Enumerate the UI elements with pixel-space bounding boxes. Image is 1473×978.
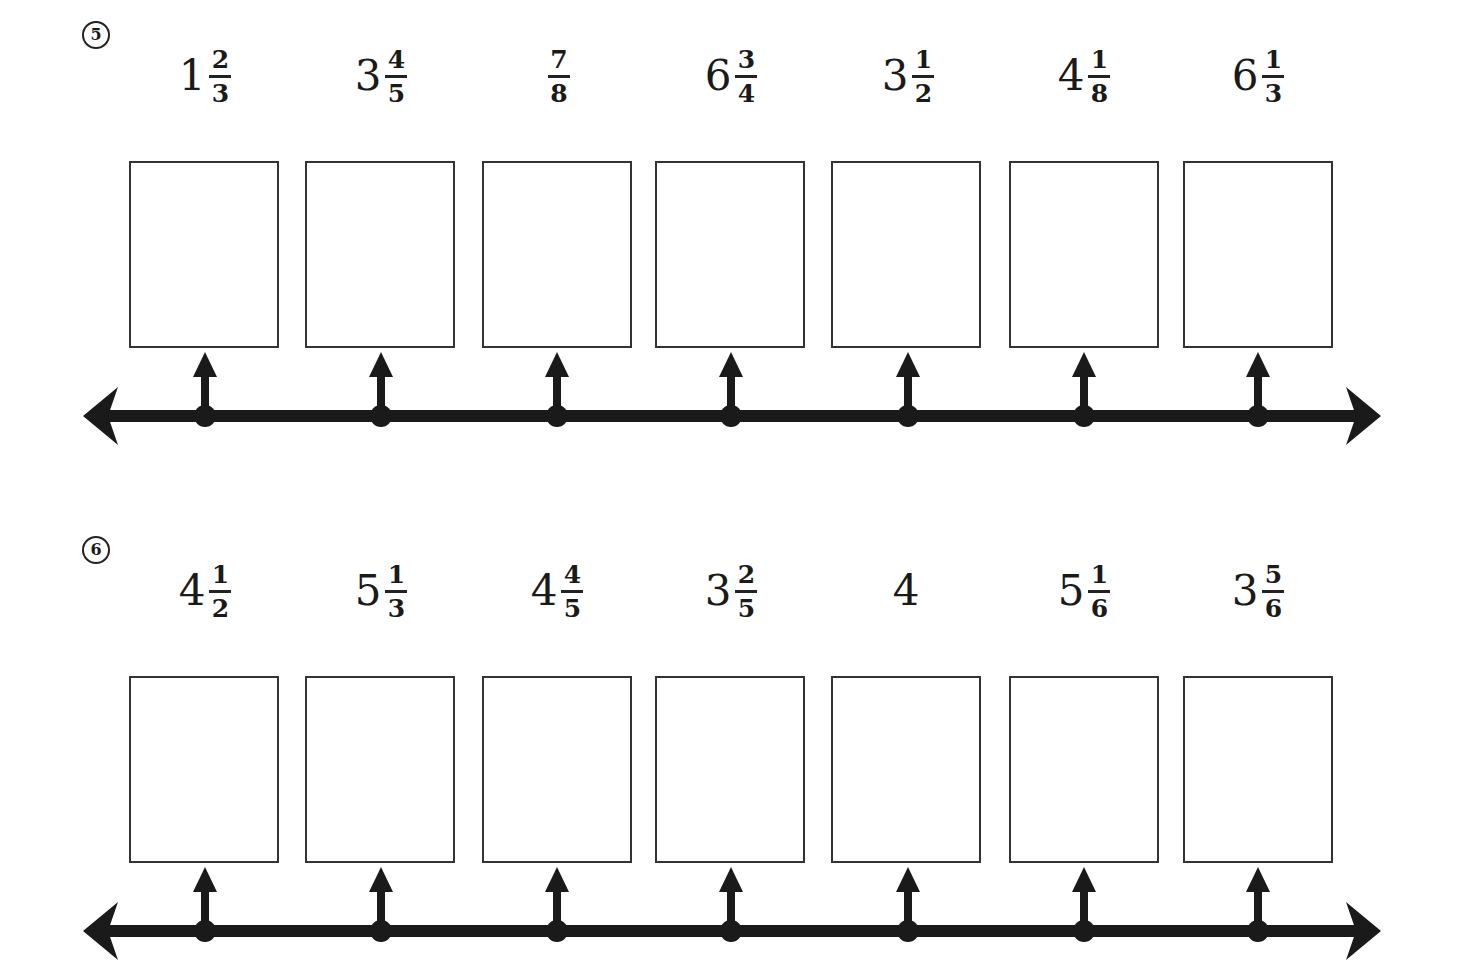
tick-point-arrow-icon [1072, 352, 1096, 427]
tick-point-arrow-icon [1072, 867, 1096, 942]
fraction: 45 [561, 562, 583, 621]
denominator: 5 [738, 593, 755, 621]
fraction: 16 [1088, 562, 1110, 621]
number-line [0, 340, 1473, 460]
fraction: 13 [1262, 47, 1284, 106]
numerator: 1 [915, 47, 932, 75]
mixed-number-label: 312 [848, 34, 968, 118]
problem-number-badge: 5 [82, 21, 110, 49]
answer-box[interactable] [1009, 161, 1159, 348]
whole-part: 5 [355, 570, 382, 612]
answer-box[interactable] [305, 676, 455, 863]
problem-5: 512334578634312418613 [0, 0, 1473, 470]
fraction: 45 [385, 47, 407, 106]
numerator: 1 [388, 562, 405, 590]
whole-part: 4 [893, 570, 920, 612]
tick-point-arrow-icon [193, 867, 217, 942]
numerator: 2 [212, 47, 229, 75]
answer-box[interactable] [831, 676, 981, 863]
denominator: 6 [1091, 593, 1108, 621]
denominator: 2 [915, 78, 932, 106]
denominator: 3 [212, 78, 229, 106]
fraction: 12 [912, 47, 934, 106]
mixed-number-label: 123 [145, 34, 265, 118]
tick-point-arrow-icon [369, 867, 393, 942]
denominator: 5 [388, 78, 405, 106]
answer-box[interactable] [482, 676, 632, 863]
fraction: 25 [735, 562, 757, 621]
mixed-number-label: 4 [848, 549, 968, 633]
denominator: 5 [564, 593, 581, 621]
denominator: 6 [1265, 593, 1282, 621]
whole-part: 3 [882, 55, 909, 97]
fraction: 12 [209, 562, 231, 621]
answer-box[interactable] [655, 161, 805, 348]
answer-box[interactable] [129, 676, 279, 863]
numerator: 4 [564, 562, 581, 590]
tick-point-arrow-icon [896, 352, 920, 427]
mixed-number-label: 634 [671, 34, 791, 118]
answer-box[interactable] [305, 161, 455, 348]
whole-part: 4 [1058, 55, 1085, 97]
mixed-number-label: 345 [321, 34, 441, 118]
mixed-number-label: 418 [1024, 34, 1144, 118]
problem-number-badge: 6 [82, 536, 110, 564]
problem-6: 64125134453254516356 [0, 515, 1473, 978]
whole-part: 3 [1232, 570, 1259, 612]
whole-part: 6 [705, 55, 732, 97]
answer-box[interactable] [1009, 676, 1159, 863]
numerator: 2 [738, 562, 755, 590]
answer-box[interactable] [655, 676, 805, 863]
whole-part: 6 [1232, 55, 1259, 97]
mixed-number-label: 356 [1198, 549, 1318, 633]
answer-box[interactable] [129, 161, 279, 348]
mixed-number-label: 78 [497, 34, 617, 118]
fraction: 78 [548, 47, 570, 106]
number-line [0, 855, 1473, 975]
denominator: 3 [388, 593, 405, 621]
tick-point-arrow-icon [545, 352, 569, 427]
mixed-number-label: 412 [145, 549, 265, 633]
whole-part: 5 [1058, 570, 1085, 612]
answer-box[interactable] [831, 161, 981, 348]
denominator: 4 [738, 78, 755, 106]
whole-part: 4 [531, 570, 558, 612]
answer-box[interactable] [1183, 676, 1333, 863]
answer-box[interactable] [1183, 161, 1333, 348]
numerator: 7 [550, 47, 567, 75]
numerator: 1 [1091, 47, 1108, 75]
tick-point-arrow-icon [719, 867, 743, 942]
tick-point-arrow-icon [896, 867, 920, 942]
numerator: 1 [212, 562, 229, 590]
fraction: 23 [209, 47, 231, 106]
tick-point-arrow-icon [369, 352, 393, 427]
fraction: 13 [385, 562, 407, 621]
whole-part: 1 [179, 55, 206, 97]
mixed-number-label: 445 [497, 549, 617, 633]
mixed-number-label: 325 [671, 549, 791, 633]
tick-point-arrow-icon [1246, 352, 1270, 427]
fraction: 34 [735, 47, 757, 106]
numerator: 1 [1091, 562, 1108, 590]
denominator: 3 [1265, 78, 1282, 106]
numerator: 3 [738, 47, 755, 75]
mixed-number-label: 513 [321, 549, 441, 633]
fraction: 56 [1262, 562, 1284, 621]
numerator: 4 [388, 47, 405, 75]
denominator: 8 [550, 78, 567, 106]
mixed-number-label: 613 [1198, 34, 1318, 118]
fraction: 18 [1088, 47, 1110, 106]
whole-part: 4 [179, 570, 206, 612]
tick-point-arrow-icon [545, 867, 569, 942]
whole-part: 3 [355, 55, 382, 97]
tick-point-arrow-icon [719, 352, 743, 427]
whole-part: 3 [705, 570, 732, 612]
tick-point-arrow-icon [193, 352, 217, 427]
denominator: 8 [1091, 78, 1108, 106]
numerator: 1 [1265, 47, 1282, 75]
denominator: 2 [212, 593, 229, 621]
answer-box[interactable] [482, 161, 632, 348]
numerator: 5 [1265, 562, 1282, 590]
tick-point-arrow-icon [1246, 867, 1270, 942]
mixed-number-label: 516 [1024, 549, 1144, 633]
